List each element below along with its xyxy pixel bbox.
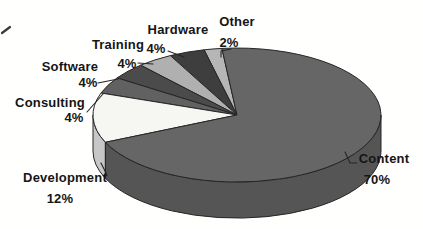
slice-pct-other: 2% [219,35,238,50]
scan-artifact-dash [2,27,10,33]
slice-pct-hardware: 4% [146,41,165,56]
slice-label-hardware: Hardware [148,22,209,37]
slice-label-development: Development [23,170,107,185]
slice-label-training: Training [92,37,144,52]
slice-label-consulting: Consulting [15,95,85,110]
slice-pct-consulting: 4% [64,110,83,125]
slice-label-software: Software [42,59,99,74]
slice-pct-development: 12% [47,191,74,206]
slice-label-content: Content [359,151,410,166]
pie-chart-figure: Other 2% Hardware 4% Training 4% Softwar… [0,0,423,229]
slice-pct-training: 4% [117,56,136,71]
slice-pct-software: 4% [78,75,97,90]
slice-pct-content: 70% [364,172,391,187]
slice-label-other: Other [219,14,255,29]
